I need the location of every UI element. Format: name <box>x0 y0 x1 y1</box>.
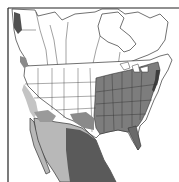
north-america-map <box>0 0 179 182</box>
canada <box>12 9 168 68</box>
range-map <box>0 0 179 182</box>
